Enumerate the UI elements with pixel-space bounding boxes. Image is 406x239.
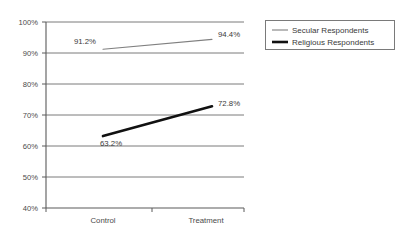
y-tick-label-50: 50%: [23, 173, 38, 182]
legend-label-secular: Secular Respondents: [292, 26, 369, 35]
y-tick-label-60: 60%: [23, 142, 38, 151]
data-label-religious-control: 63.2%: [100, 139, 122, 148]
y-tick-label-90: 90%: [23, 49, 38, 58]
y-tick-label-70: 70%: [23, 111, 38, 120]
x-category-label-treatment: Treatment: [188, 216, 224, 225]
line-chart: 100% 90% 80% 70% 60% 50% 40% Control Tre…: [0, 0, 406, 239]
chart-container: 100% 90% 80% 70% 60% 50% 40% Control Tre…: [0, 0, 406, 239]
legend: Secular Respondents Religious Respondent…: [266, 21, 395, 50]
data-label-secular-treatment: 94.4%: [218, 30, 240, 39]
y-tick-label-80: 80%: [23, 80, 38, 89]
y-tick-label-40: 40%: [23, 204, 38, 213]
x-category-label-control: Control: [90, 216, 115, 225]
legend-label-religious: Religious Respondents: [292, 38, 374, 47]
y-tick-label-100: 100%: [19, 18, 39, 27]
data-label-secular-control: 91.2%: [74, 37, 96, 46]
data-label-religious-treatment: 72.8%: [218, 99, 240, 108]
